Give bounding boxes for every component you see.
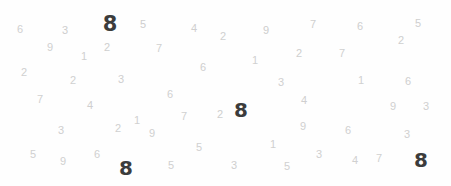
digit-glyph-3: 3 (62, 25, 68, 36)
digit-glyph-7: 7 (376, 153, 382, 164)
digit-glyph-3: 3 (58, 125, 64, 136)
digit-glyph-7: 7 (310, 19, 316, 30)
digit-glyph-3: 3 (278, 77, 284, 88)
digit-glyph-9: 9 (390, 101, 396, 112)
digit-glyph-2: 2 (220, 31, 226, 42)
digit-glyph-6: 6 (345, 125, 351, 136)
digit-glyph-7: 7 (339, 48, 345, 59)
digit-glyph-2: 2 (70, 75, 76, 86)
digit-glyph-7: 7 (156, 43, 162, 54)
digit-glyph-1: 1 (358, 75, 364, 86)
digit-glyph-3: 3 (423, 101, 429, 112)
digit-glyph-1: 1 (134, 115, 140, 126)
digit-glyph-1: 1 (81, 51, 87, 62)
digit-glyph-9: 9 (47, 42, 53, 53)
digit-glyph-2: 2 (398, 35, 404, 46)
digit-glyph-6: 6 (17, 24, 23, 35)
digit-glyph-4: 4 (352, 155, 358, 166)
digit-glyph-6: 6 (405, 76, 411, 87)
digit-glyph-4: 4 (87, 100, 93, 111)
digit-glyph-5: 5 (196, 142, 202, 153)
digit-glyph-2: 2 (104, 42, 110, 53)
digit-glyph-2: 2 (115, 123, 121, 134)
digit-glyph-9: 9 (60, 156, 66, 167)
digit-glyph-1: 1 (252, 55, 258, 66)
digit-glyph-9: 9 (300, 121, 306, 132)
digit-glyph-8: 8 (414, 150, 428, 170)
digit-glyph-2: 2 (296, 48, 302, 59)
digit-glyph-7: 7 (37, 94, 43, 105)
digit-glyph-2: 2 (21, 67, 27, 78)
digit-glyph-3: 3 (118, 74, 124, 85)
digit-glyph-5: 5 (415, 18, 421, 29)
digit-glyph-3: 3 (404, 129, 410, 140)
digit-glyph-5: 5 (168, 160, 174, 171)
digit-glyph-5: 5 (30, 149, 36, 160)
digit-glyph-9: 9 (263, 25, 269, 36)
digit-glyph-1: 1 (270, 139, 276, 150)
digit-glyph-2: 2 (217, 109, 223, 120)
digit-glyph-5: 5 (284, 161, 290, 172)
digit-glyph-6: 6 (357, 21, 363, 32)
digit-scatter-canvas: 6385429765912712722236316746493728129396… (0, 0, 451, 186)
digit-glyph-3: 3 (316, 149, 322, 160)
digit-glyph-4: 4 (191, 23, 197, 34)
digit-glyph-8: 8 (103, 14, 118, 35)
digit-glyph-8: 8 (234, 100, 248, 120)
digit-glyph-8: 8 (119, 158, 133, 178)
digit-glyph-6: 6 (200, 62, 206, 73)
digit-glyph-7: 7 (181, 111, 187, 122)
digit-glyph-5: 5 (140, 19, 146, 30)
digit-glyph-6: 6 (94, 149, 100, 160)
digit-glyph-4: 4 (301, 95, 307, 106)
digit-glyph-9: 9 (149, 128, 155, 139)
digit-glyph-3: 3 (231, 160, 237, 171)
digit-glyph-6: 6 (167, 89, 173, 100)
